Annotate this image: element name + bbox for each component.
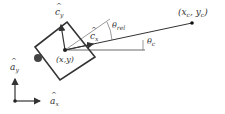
label-c-y: cy (55, 8, 63, 18)
center-point (63, 48, 67, 52)
label-a-x: ax (50, 97, 59, 107)
label-theta-c: θc (147, 38, 155, 47)
label-center: (x,y) (56, 56, 74, 64)
c-y-arrow (61, 25, 65, 50)
label-c-x: cx (90, 32, 98, 42)
gray-circle (34, 54, 42, 62)
target-point (190, 21, 194, 25)
label-a-y: ay (10, 63, 19, 73)
label-theta-rel: θrel (112, 22, 125, 31)
label-target-point: (xc, yc) (178, 8, 208, 18)
origin-point (13, 99, 17, 103)
